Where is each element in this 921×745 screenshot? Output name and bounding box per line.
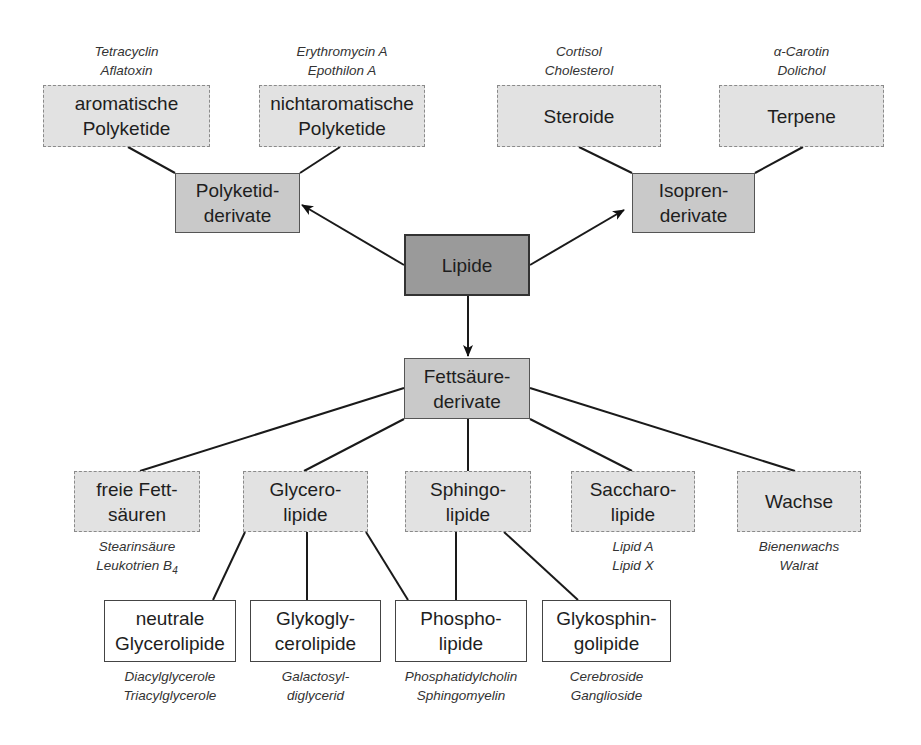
node-glycosphingolipids: Glykosphin- golipide	[542, 600, 671, 662]
terpene-examples: α-Carotin Dolichol	[719, 42, 884, 80]
node-glycerolipids: Glycero- lipide	[243, 471, 368, 532]
node-neutral-glycerolipids: neutrale Glycerolipide	[104, 600, 236, 662]
phospholipid-examples: Phosphatidylcholin Sphingomyelin	[385, 667, 537, 705]
saccharolipid-examples: Lipid A Lipid X	[571, 537, 695, 575]
node-polyketide-derivatives: Polyketid- derivate	[175, 173, 300, 233]
glycosphingolipid-examples: Cerebroside Ganglioside	[542, 667, 671, 705]
neutral-glycerolipid-examples: Diacylglycerole Triacylglycerole	[94, 667, 246, 705]
node-free-fatty-acids: freie Fett- säuren	[74, 471, 200, 532]
node-nonaromatic-polyketides: nichtaromatische Polyketide	[259, 85, 425, 147]
free-fatty-acid-examples: Stearinsäure Leukotrien B4	[60, 537, 214, 580]
steroid-examples: Cortisol Cholesterol	[497, 42, 661, 80]
node-saccharolipids: Saccharo- lipide	[571, 471, 695, 532]
node-terpenes: Terpene	[719, 85, 884, 147]
node-fatty-acid-derivatives: Fettsäure- derivate	[404, 358, 530, 419]
node-waxes: Wachse	[737, 471, 861, 532]
node-aromatic-polyketides: aromatische Polyketide	[43, 85, 210, 147]
node-phospholipids: Phospho- lipide	[395, 600, 527, 662]
node-glycoglycerolipids: Glykogly- cerolipide	[250, 600, 381, 662]
node-steroids: Steroide	[497, 85, 661, 147]
glycoglycerolipid-examples: Galactosyl- diglycerid	[250, 667, 381, 705]
node-isoprene-derivatives: Isopren- derivate	[632, 173, 755, 233]
nonaromatic-examples: Erythromycin A Epothilon A	[259, 42, 425, 80]
node-sphingolipids: Sphingo- lipide	[405, 471, 531, 532]
wax-examples: Bienenwachs Walrat	[737, 537, 861, 575]
aromatic-examples: Tetracyclin Aflatoxin	[43, 42, 210, 80]
node-lipids-root: Lipide	[404, 234, 530, 296]
